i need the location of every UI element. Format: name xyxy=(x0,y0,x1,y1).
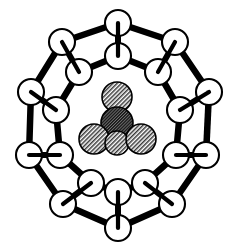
guest-atom-light xyxy=(79,124,109,154)
molecular-diagram-figure xyxy=(0,0,236,251)
molecule-canvas xyxy=(0,0,236,251)
guest-atom-light xyxy=(105,131,129,155)
guest-atom-light xyxy=(126,124,156,154)
